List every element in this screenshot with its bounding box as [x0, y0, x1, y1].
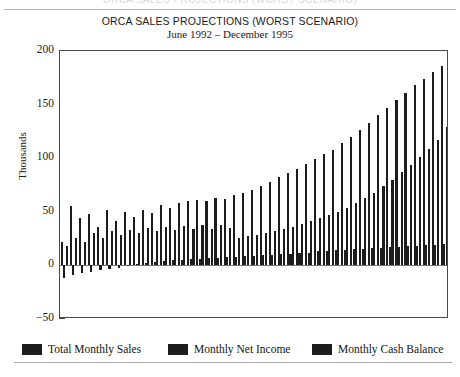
bar — [328, 215, 330, 265]
y-axis-tick-label-wrap: 50 — [14, 204, 54, 217]
legend-swatch — [22, 344, 42, 355]
bottom-divider-rule — [14, 362, 452, 363]
bar — [373, 193, 375, 266]
bar — [404, 93, 406, 266]
bar — [106, 210, 108, 266]
bar — [247, 236, 249, 265]
legend-item: Monthly Cash Balance — [312, 341, 443, 357]
bar — [224, 199, 226, 265]
y-axis-tick-label: −50 — [20, 311, 54, 323]
bar — [187, 201, 189, 265]
bar — [118, 265, 120, 267]
bar — [423, 79, 425, 266]
bar — [214, 198, 216, 266]
y-axis-tick-label-wrap: 200 — [14, 43, 54, 56]
bar — [99, 265, 101, 269]
bar — [283, 229, 285, 265]
bar — [332, 150, 334, 266]
bar — [165, 227, 167, 266]
bar — [401, 172, 403, 265]
bar — [93, 233, 95, 265]
bar — [278, 177, 280, 265]
bar — [142, 210, 144, 266]
bar — [251, 190, 253, 265]
bar — [120, 235, 122, 265]
bar — [174, 230, 176, 265]
legend-item: Monthly Net Income — [168, 341, 290, 357]
bar — [138, 233, 140, 265]
bar — [346, 208, 348, 266]
y-axis-tick-label-wrap: 150 — [14, 97, 54, 110]
legend-swatch — [312, 344, 332, 355]
bar — [220, 225, 222, 266]
bar — [441, 66, 443, 265]
bar — [183, 226, 185, 266]
bar — [437, 140, 439, 265]
legend-label: Monthly Net Income — [194, 343, 290, 355]
bar — [238, 238, 240, 266]
y-axis-tick-label: 150 — [20, 97, 54, 109]
bar — [229, 228, 231, 266]
bar — [160, 205, 162, 265]
bar — [61, 242, 63, 266]
y-axis-tick-label-wrap: −50 — [14, 311, 54, 324]
bar — [337, 212, 339, 266]
bar — [151, 213, 153, 266]
bar — [70, 206, 72, 265]
bar — [410, 165, 412, 266]
bar — [391, 180, 393, 266]
legend-swatch — [168, 344, 188, 355]
bar — [341, 143, 343, 265]
bar — [323, 154, 325, 265]
legend-label: Total Monthly Sales — [48, 343, 141, 355]
bar — [386, 108, 388, 266]
bar-series-group — [60, 51, 447, 317]
bar — [446, 127, 448, 265]
bar — [88, 214, 90, 265]
y-axis-tick-label: 0 — [20, 257, 54, 269]
y-axis-tick-label-wrap: 0 — [14, 257, 54, 270]
bar — [75, 238, 77, 266]
bar — [368, 123, 370, 266]
y-axis-tick-label: 50 — [20, 204, 54, 216]
bar — [81, 265, 83, 273]
bar — [382, 186, 384, 265]
bar — [178, 203, 180, 265]
plot-area — [59, 50, 448, 318]
clipped-header-text: ORCA SALES PROJECTIONS (WORST SCENARIO) — [0, 0, 460, 5]
bar — [102, 238, 104, 266]
bar — [364, 198, 366, 266]
bar — [296, 169, 298, 265]
bar — [72, 265, 74, 275]
bar — [169, 208, 171, 266]
bar — [205, 201, 207, 265]
chart-title: ORCA SALES PROJECTIONS (WORST SCENARIO) — [0, 15, 460, 27]
bar — [265, 233, 267, 265]
bar — [377, 115, 379, 265]
bar — [319, 218, 321, 265]
top-divider-rule — [4, 9, 456, 10]
chart-legend: Total Monthly SalesMonthly Net IncomeMon… — [22, 341, 442, 359]
bar — [414, 85, 416, 265]
bar — [124, 212, 126, 266]
chart-figure: ORCA SALES PROJECTIONS (WORST SCENARIO) … — [0, 0, 460, 377]
bar — [260, 186, 262, 265]
bar — [63, 265, 65, 278]
bar — [115, 221, 117, 265]
bar — [269, 182, 271, 266]
bar — [359, 130, 361, 265]
bar — [310, 221, 312, 265]
bar — [79, 218, 81, 265]
legend-item: Total Monthly Sales — [22, 341, 141, 357]
bar — [129, 230, 131, 265]
bar — [90, 265, 92, 271]
bar — [233, 195, 235, 266]
chart-subtitle: June 1992 – December 1995 — [0, 28, 460, 40]
legend-label: Monthly Cash Balance — [338, 343, 443, 355]
bar — [287, 173, 289, 265]
bar — [66, 246, 68, 265]
bar — [192, 229, 194, 265]
bar — [301, 224, 303, 266]
bar — [196, 200, 198, 265]
bar — [147, 228, 149, 266]
